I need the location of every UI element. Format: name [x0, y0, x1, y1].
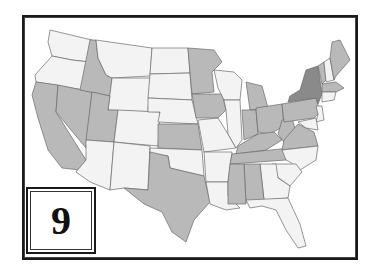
- state-NY: [288, 66, 322, 104]
- state-MS: [228, 164, 246, 204]
- state-MA: [322, 82, 344, 92]
- map-number-label: 9: [51, 201, 71, 241]
- state-CO: [114, 110, 160, 146]
- state-MT: [96, 40, 152, 78]
- state-IA: [192, 94, 226, 118]
- state-KS: [158, 124, 202, 150]
- state-SD: [148, 73, 192, 100]
- state-WY: [108, 78, 150, 112]
- state-MI: [246, 82, 268, 110]
- state-NM: [110, 142, 150, 190]
- state-ND: [150, 48, 190, 74]
- state-AR: [204, 152, 232, 182]
- state-CT-RI: [322, 92, 336, 102]
- state-ME: [330, 40, 350, 80]
- state-AZ: [76, 140, 114, 190]
- state-FL: [246, 198, 306, 248]
- map-number-box: 9: [26, 187, 96, 254]
